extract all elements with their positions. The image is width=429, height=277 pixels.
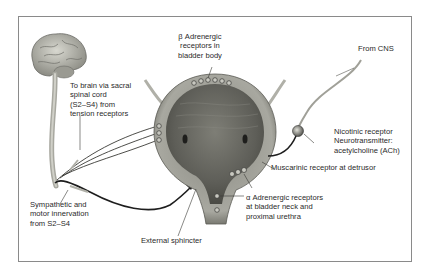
label-muscarinic-receptor: Muscarinic receptor at detrusor xyxy=(271,163,376,172)
brain-icon xyxy=(32,34,86,78)
afferent-nerves xyxy=(57,126,158,180)
efferent-nerve-from-cns xyxy=(298,60,361,128)
left-wall-receptors xyxy=(157,124,162,143)
label-to-brain: To brain via sacral spinal cord (S2–S4) … xyxy=(70,81,131,119)
label-from-cns: From CNS xyxy=(358,44,394,53)
label-nicotinic-receptor: Nicotinic receptor Neurotransmitter: ace… xyxy=(334,127,400,155)
label-alpha-receptors: α Adrenergic receptors at bladder neck a… xyxy=(246,193,323,221)
nicotinic-ganglion xyxy=(293,126,304,137)
label-sympathetic-innervation: Sympathetic and motor innervation from S… xyxy=(30,200,89,228)
label-beta-receptors: β Adrenergic receptors in bladder body xyxy=(178,32,222,60)
label-external-sphincter: External sphincter xyxy=(141,236,202,245)
